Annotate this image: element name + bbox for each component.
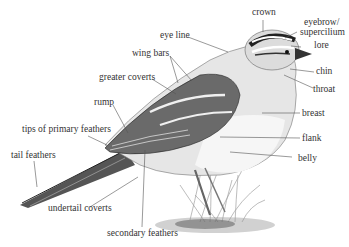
label-eye-line: eye line	[160, 30, 190, 41]
eye	[285, 50, 289, 54]
label-undertail-coverts: undertail coverts	[48, 203, 112, 214]
bird-anatomy-diagram: crown eyebrow/ supercilium eye line lore…	[0, 0, 349, 247]
leg	[195, 170, 210, 215]
label-belly: belly	[298, 153, 317, 164]
label-crown: crown	[252, 7, 276, 18]
label-tips-of-primary-feathers: tips of primary feathers	[22, 124, 111, 135]
label-wing-bars: wing bars	[132, 48, 169, 59]
label-tail-feathers: tail feathers	[11, 150, 56, 161]
label-breast: breast	[302, 108, 325, 119]
label-supercilium: supercilium	[300, 27, 345, 38]
label-throat: throat	[313, 84, 335, 95]
label-lore: lore	[314, 40, 329, 51]
label-secondary-feathers: secondary feathers	[107, 228, 178, 239]
label-greater-coverts: greater coverts	[99, 72, 155, 83]
label-rump: rump	[94, 97, 114, 108]
label-chin: chin	[316, 66, 332, 77]
beak	[295, 48, 312, 60]
label-flank: flank	[302, 133, 322, 144]
